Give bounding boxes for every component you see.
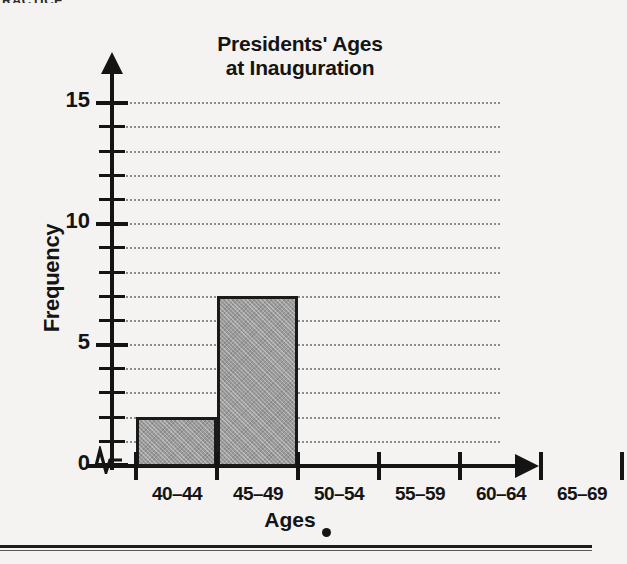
- x-axis-tick: [458, 452, 462, 480]
- x-axis-category-label: 40–44: [132, 483, 222, 505]
- x-axis-tick: [620, 452, 624, 480]
- histogram-chart: Presidents' Ages at Inauguration 051015 …: [0, 0, 592, 545]
- x-axis-tick: [377, 452, 381, 480]
- x-axis-tick: [296, 452, 300, 480]
- x-axis-category-label: 45–49: [213, 483, 303, 505]
- x-axis-title: Ages: [180, 508, 400, 532]
- x-axis-category-label: 55–59: [375, 483, 465, 505]
- x-axis-category-label: 60–64: [456, 483, 546, 505]
- x-axis-tick: [215, 452, 219, 480]
- x-axis-category-label: 65–69: [537, 483, 627, 505]
- bottom-rule-hairline: [0, 550, 592, 551]
- x-axis-ticks-group: 40–4445–4950–5455–5960–6465–69: [0, 0, 592, 545]
- bottom-rule: [0, 545, 592, 548]
- y-axis-title: Frequency: [39, 198, 65, 358]
- footer-bullet-dot: [322, 528, 331, 537]
- x-axis-tick: [539, 452, 543, 480]
- x-axis-tick: [134, 452, 138, 480]
- x-axis-category-label: 50–54: [294, 483, 384, 505]
